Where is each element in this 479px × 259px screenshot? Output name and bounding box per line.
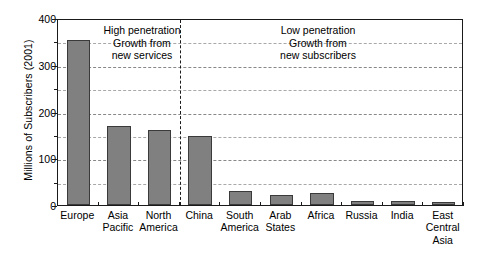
x-tick-label-south-america: South America (220, 209, 259, 234)
y-tick-label-400: 400 (16, 13, 56, 25)
bar-india (391, 201, 415, 205)
plot-area: High penetration Growth from new service… (57, 19, 463, 206)
y-tick-label-200: 200 (16, 107, 56, 119)
bar-chart-figure: Millions of Subscribers (2001) 010020030… (0, 0, 479, 259)
low-penetration-note: Low penetration Growth from new subscrib… (228, 24, 408, 62)
bar-east-central-asia (432, 202, 456, 205)
x-tick-mark-5 (301, 202, 302, 206)
y-tick-label-300: 300 (16, 60, 56, 72)
bar-europe (67, 40, 91, 205)
x-tick-label-russia: Russia (345, 209, 377, 221)
bar-asia-pacific (107, 126, 131, 205)
x-tick-label-east-central-asia: East Central Asia (426, 209, 460, 246)
x-tick-mark-7 (382, 202, 383, 206)
gridline-major-200 (58, 114, 462, 115)
bar-africa (310, 193, 334, 205)
x-tick-label-north-america: North America (139, 209, 178, 234)
x-tick-label-africa: Africa (307, 209, 334, 221)
x-tick-mark-8 (422, 202, 423, 206)
x-tick-label-arab-states: Arab States (265, 209, 295, 234)
x-tick-mark-3 (219, 202, 220, 206)
x-tick-mark-1 (138, 202, 139, 206)
x-tick-label-europe: Europe (60, 209, 94, 221)
y-tick-mark-0 (52, 206, 57, 207)
bar-south-america (229, 191, 253, 205)
y-tick-label-0: 0 (16, 200, 56, 212)
y-tick-label-100: 100 (16, 153, 56, 165)
x-tick-mark-4 (260, 202, 261, 206)
x-tick-mark-6 (341, 202, 342, 206)
x-tick-label-india: India (391, 209, 414, 221)
bar-arab-states (270, 195, 294, 205)
x-tick-label-asia-pacific: Asia Pacific (102, 209, 133, 234)
high-penetration-note: High penetration Growth from new service… (82, 24, 202, 62)
x-tick-mark-0 (98, 202, 99, 206)
x-tick-label-china: China (185, 209, 212, 221)
gridline-major-300 (58, 67, 462, 68)
bar-russia (351, 201, 375, 205)
x-tick-mark-2 (179, 202, 180, 206)
bar-china (188, 136, 212, 205)
x-tick-mark-9 (463, 202, 464, 206)
gridline-minor-250 (58, 90, 462, 91)
x-axis-labels: EuropeAsia PacificNorth AmericaChinaSout… (57, 209, 463, 257)
bar-north-america (148, 130, 172, 205)
